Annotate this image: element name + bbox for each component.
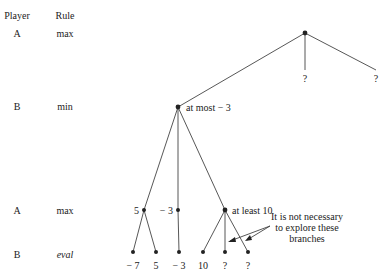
a-node-label: 5	[134, 205, 139, 216]
leaf-value: 5	[154, 260, 159, 271]
annotation-line: branches	[289, 233, 325, 244]
leaf-value: − 3	[172, 260, 185, 271]
a-node-label: at least 10	[232, 205, 273, 216]
a-node-label: − 3	[160, 205, 173, 216]
annotation-line: to explore these	[275, 222, 338, 233]
leaf-value: ?	[246, 260, 250, 271]
b-node-label: at most − 3	[186, 102, 231, 113]
level-2-rule: min	[57, 101, 73, 112]
level-1-player: A	[13, 28, 20, 39]
leaf-value: − 7	[126, 260, 139, 271]
rule-header: Rule	[56, 10, 75, 21]
player-header: Player	[4, 10, 30, 21]
level-1-rule: max	[56, 28, 73, 39]
leaf-value: ?	[223, 260, 227, 271]
level-4-player: B	[14, 249, 21, 260]
game-tree	[0, 0, 387, 277]
level-3-rule: max	[56, 205, 73, 216]
leaf-value: 10	[198, 260, 208, 271]
level-2-player: B	[14, 101, 21, 112]
annotation-line: It is not necessary	[271, 211, 343, 222]
level-3-player: A	[13, 205, 20, 216]
root-child-label: ?	[303, 73, 307, 84]
root-child-label: ?	[374, 73, 378, 84]
level-4-rule: eval	[57, 249, 74, 260]
